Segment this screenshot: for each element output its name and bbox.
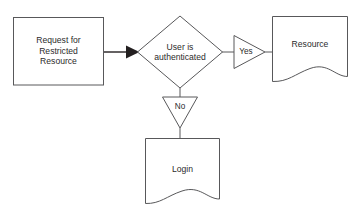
edge-request-to-decision xyxy=(104,46,140,59)
node-yes-shape xyxy=(234,36,265,69)
node-request-shape xyxy=(14,18,104,86)
flowchart-canvas xyxy=(0,0,358,220)
node-resource-shape xyxy=(273,17,348,82)
node-login-shape xyxy=(146,139,220,204)
flowchart-diagram: Request for Restricted Resource User is … xyxy=(0,0,358,220)
node-decision-shape xyxy=(138,16,223,88)
node-no-shape xyxy=(163,97,198,128)
